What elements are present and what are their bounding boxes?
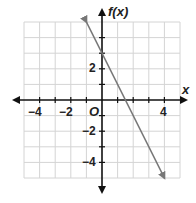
y-tick-label: −2 [82,124,96,138]
x-tick-label: 4 [160,105,167,119]
y-axis-label: f(x) [108,4,128,19]
y-tick-label: −4 [82,155,96,169]
origin-label: O [89,104,99,119]
x-tick-label: −4 [28,105,42,119]
x-axis-label: x [181,82,190,97]
coordinate-plane: f(x) x O −4 −2 4 2 −2 −4 [0,0,196,203]
y-tick-label: 2 [89,61,96,75]
x-tick-label: −2 [59,105,73,119]
